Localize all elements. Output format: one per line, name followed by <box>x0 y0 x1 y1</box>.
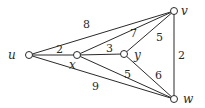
node-y <box>121 51 128 58</box>
weight-x-w: 5 <box>124 68 131 81</box>
edge-u-v <box>29 11 174 55</box>
weight-y-v: 5 <box>156 31 163 44</box>
edge-u-w <box>29 55 174 99</box>
weight-x-y: 3 <box>106 42 113 55</box>
node-label-u: u <box>8 48 16 62</box>
weighted-graph-diagram: 8 2 9 7 3 5 5 6 2 u x y v w <box>0 0 205 108</box>
node-label-y: y <box>133 48 141 62</box>
node-v <box>171 8 178 15</box>
node-label-v: v <box>181 4 188 18</box>
weight-v-w: 2 <box>178 49 185 62</box>
node-u <box>26 52 33 59</box>
edge-x-y <box>77 54 124 55</box>
node-label-w: w <box>183 92 194 106</box>
weight-y-w: 6 <box>155 69 162 82</box>
weight-u-w: 9 <box>92 80 99 93</box>
weight-u-x: 2 <box>56 43 63 56</box>
node-label-x: x <box>69 58 76 72</box>
edge-y-w <box>124 54 174 99</box>
weight-u-v: 8 <box>83 18 90 31</box>
weight-x-v: 7 <box>130 27 137 40</box>
node-w <box>171 96 178 103</box>
